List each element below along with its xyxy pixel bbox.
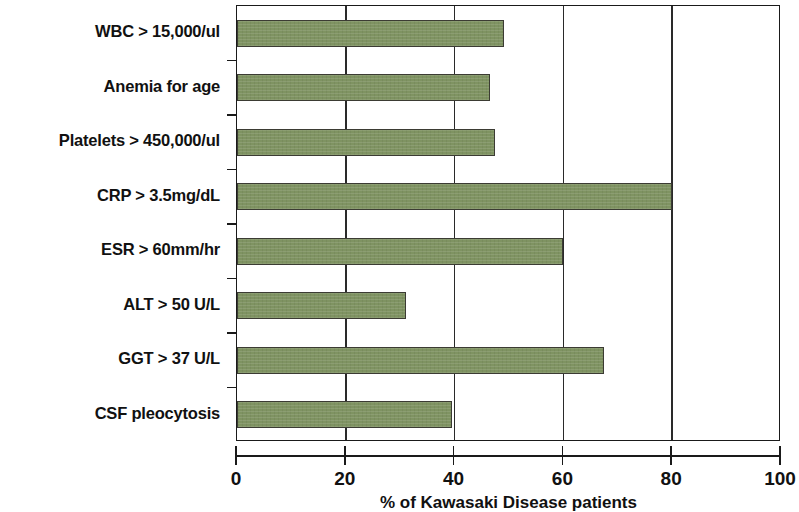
category-label: Anemia for age bbox=[0, 78, 220, 95]
x-axis-tick bbox=[235, 446, 237, 465]
category-label-column: WBC > 15,000/ulAnemia for agePlatelets >… bbox=[0, 5, 228, 441]
category-label: ESR > 60mm/hr bbox=[0, 241, 220, 258]
bar bbox=[237, 238, 563, 265]
y-axis-tick bbox=[227, 278, 237, 280]
x-axis-line bbox=[236, 455, 781, 457]
gridline bbox=[345, 6, 347, 440]
bar bbox=[237, 20, 504, 47]
chart-figure: WBC > 15,000/ulAnemia for agePlatelets >… bbox=[0, 0, 799, 512]
category-label: GGT > 37 U/L bbox=[0, 350, 220, 367]
category-label: CSF pleocytosis bbox=[0, 405, 220, 422]
category-label: CRP > 3.5mg/dL bbox=[0, 187, 220, 204]
category-label: ALT > 50 U/L bbox=[0, 296, 220, 313]
bar bbox=[237, 401, 452, 428]
x-axis-tick-label: 40 bbox=[443, 468, 464, 490]
category-label: Platelets > 450,000/ul bbox=[0, 132, 220, 149]
x-axis-tick bbox=[344, 446, 346, 465]
x-axis-tick bbox=[670, 446, 672, 465]
y-axis-tick bbox=[227, 169, 237, 171]
bar bbox=[237, 347, 604, 374]
gridline bbox=[563, 6, 565, 440]
x-axis-tick-label: 100 bbox=[764, 468, 796, 490]
y-axis-tick bbox=[227, 223, 237, 225]
x-axis-tick bbox=[779, 446, 781, 465]
y-axis-tick bbox=[227, 114, 237, 116]
y-axis-tick bbox=[227, 332, 237, 334]
category-label: WBC > 15,000/ul bbox=[0, 23, 220, 40]
y-axis-tick bbox=[227, 60, 237, 62]
bar bbox=[237, 183, 672, 210]
bar bbox=[237, 292, 406, 319]
x-axis-tick bbox=[453, 446, 455, 465]
x-axis-tick-label: 0 bbox=[231, 468, 242, 490]
plot-area bbox=[236, 5, 780, 441]
x-axis-title: % of Kawasaki Disease patients bbox=[236, 493, 781, 512]
y-axis-tick bbox=[227, 387, 237, 389]
x-axis-tick-label: 80 bbox=[661, 468, 682, 490]
bar bbox=[237, 129, 495, 156]
gridline bbox=[454, 6, 456, 440]
x-axis-tick bbox=[562, 446, 564, 465]
x-axis-tick-label: 20 bbox=[334, 468, 355, 490]
x-axis-tick-label: 60 bbox=[552, 468, 573, 490]
gridline bbox=[671, 6, 673, 440]
bar bbox=[237, 74, 490, 101]
